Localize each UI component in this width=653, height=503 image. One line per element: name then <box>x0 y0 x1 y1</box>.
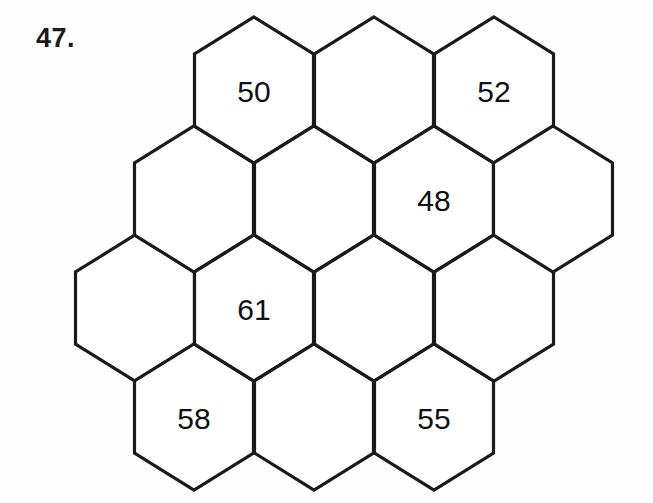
hexagon-cell-value: 52 <box>477 75 510 108</box>
worksheet-page: 47. 585061485552 <box>0 0 653 503</box>
hexagon-cell-value: 58 <box>177 402 210 435</box>
hexagon-cell-value: 50 <box>237 75 270 108</box>
hexagon-cell-value: 55 <box>417 402 450 435</box>
hexagon-cell-value: 48 <box>417 184 450 217</box>
hexagon-grid: 585061485552 <box>0 0 653 503</box>
hexagon-cell-value: 61 <box>237 293 270 326</box>
hexagon-layer <box>76 17 613 490</box>
